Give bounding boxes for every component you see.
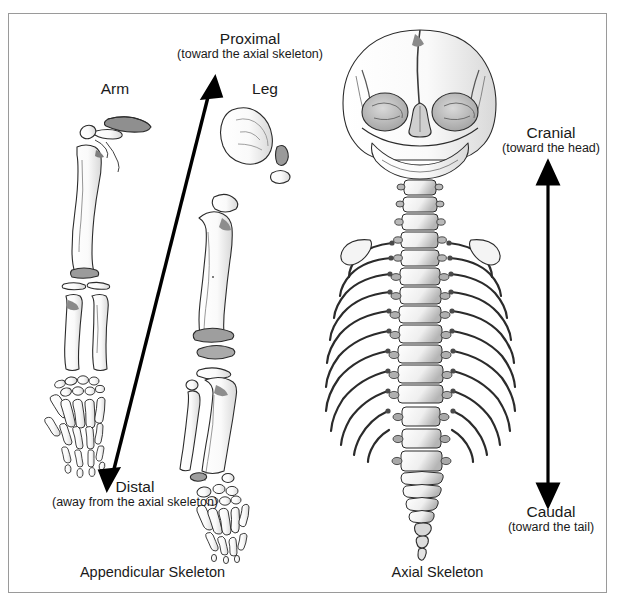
label-distal-term: Distal (20, 478, 250, 495)
label-leg: Leg (225, 80, 305, 97)
label-cranial-term: Cranial (488, 124, 614, 141)
label-caudal-term: Caudal (488, 503, 614, 520)
label-caudal: Caudal (toward the tail) (488, 503, 614, 534)
label-leg-text: Leg (225, 80, 305, 97)
label-proximal: Proximal (toward the axial skeleton) (150, 30, 350, 61)
label-arm-text: Arm (75, 80, 155, 97)
label-proximal-definition: (toward the axial skeleton) (150, 47, 350, 61)
label-distal-definition: (away from the axial skeleton) (20, 495, 250, 509)
caption-appendicular-skeleton: Appendicular Skeleton (50, 564, 255, 580)
label-arm: Arm (75, 80, 155, 97)
label-proximal-term: Proximal (150, 30, 350, 47)
label-cranial-definition: (toward the head) (488, 141, 614, 155)
label-caudal-definition: (toward the tail) (488, 520, 614, 534)
label-cranial: Cranial (toward the head) (488, 124, 614, 155)
caption-axial-skeleton: Axial Skeleton (370, 564, 505, 580)
label-distal: Distal (away from the axial skeleton) (20, 478, 250, 509)
